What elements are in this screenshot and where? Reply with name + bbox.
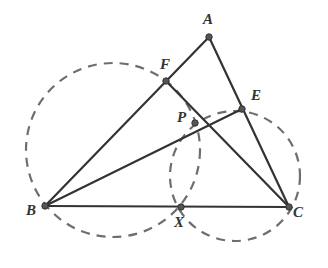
label-point-a: A bbox=[203, 12, 213, 27]
segment-cf bbox=[166, 81, 289, 207]
label-point-f: F bbox=[160, 57, 170, 72]
diagram-svg bbox=[0, 0, 328, 268]
circle-CEPX bbox=[170, 111, 300, 241]
point-c bbox=[286, 204, 292, 210]
label-point-b: B bbox=[26, 203, 36, 218]
segment-bc bbox=[45, 206, 289, 207]
point-e bbox=[239, 106, 245, 112]
label-point-p: P bbox=[177, 110, 186, 125]
point-a bbox=[206, 34, 212, 40]
label-point-e: E bbox=[251, 88, 261, 103]
segment-ac bbox=[209, 37, 289, 207]
segment-be bbox=[45, 109, 242, 206]
point-b bbox=[42, 203, 48, 209]
point-p bbox=[192, 120, 198, 126]
label-point-x: X bbox=[174, 215, 184, 230]
point-f bbox=[163, 78, 169, 84]
label-point-c: C bbox=[293, 205, 303, 220]
geometry-diagram: A B C E F P X bbox=[0, 0, 328, 268]
point-x bbox=[178, 204, 184, 210]
